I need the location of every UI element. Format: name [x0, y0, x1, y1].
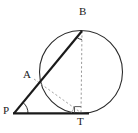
- vertex-label-t: T: [77, 116, 84, 127]
- circle-shape: [40, 31, 123, 114]
- angle-arc-t-inner: [71, 106, 74, 113]
- segment-bt-dashed: [81, 31, 82, 113]
- geometry-figure: P A B T: [0, 0, 138, 133]
- vertex-label-p: P: [3, 105, 9, 116]
- geometry-canvas: [0, 0, 138, 133]
- angle-arc-b: [77, 37, 82, 39]
- angle-arc-p: [23, 103, 28, 114]
- vertex-label-b: B: [79, 6, 86, 17]
- vertex-label-a: A: [23, 69, 31, 80]
